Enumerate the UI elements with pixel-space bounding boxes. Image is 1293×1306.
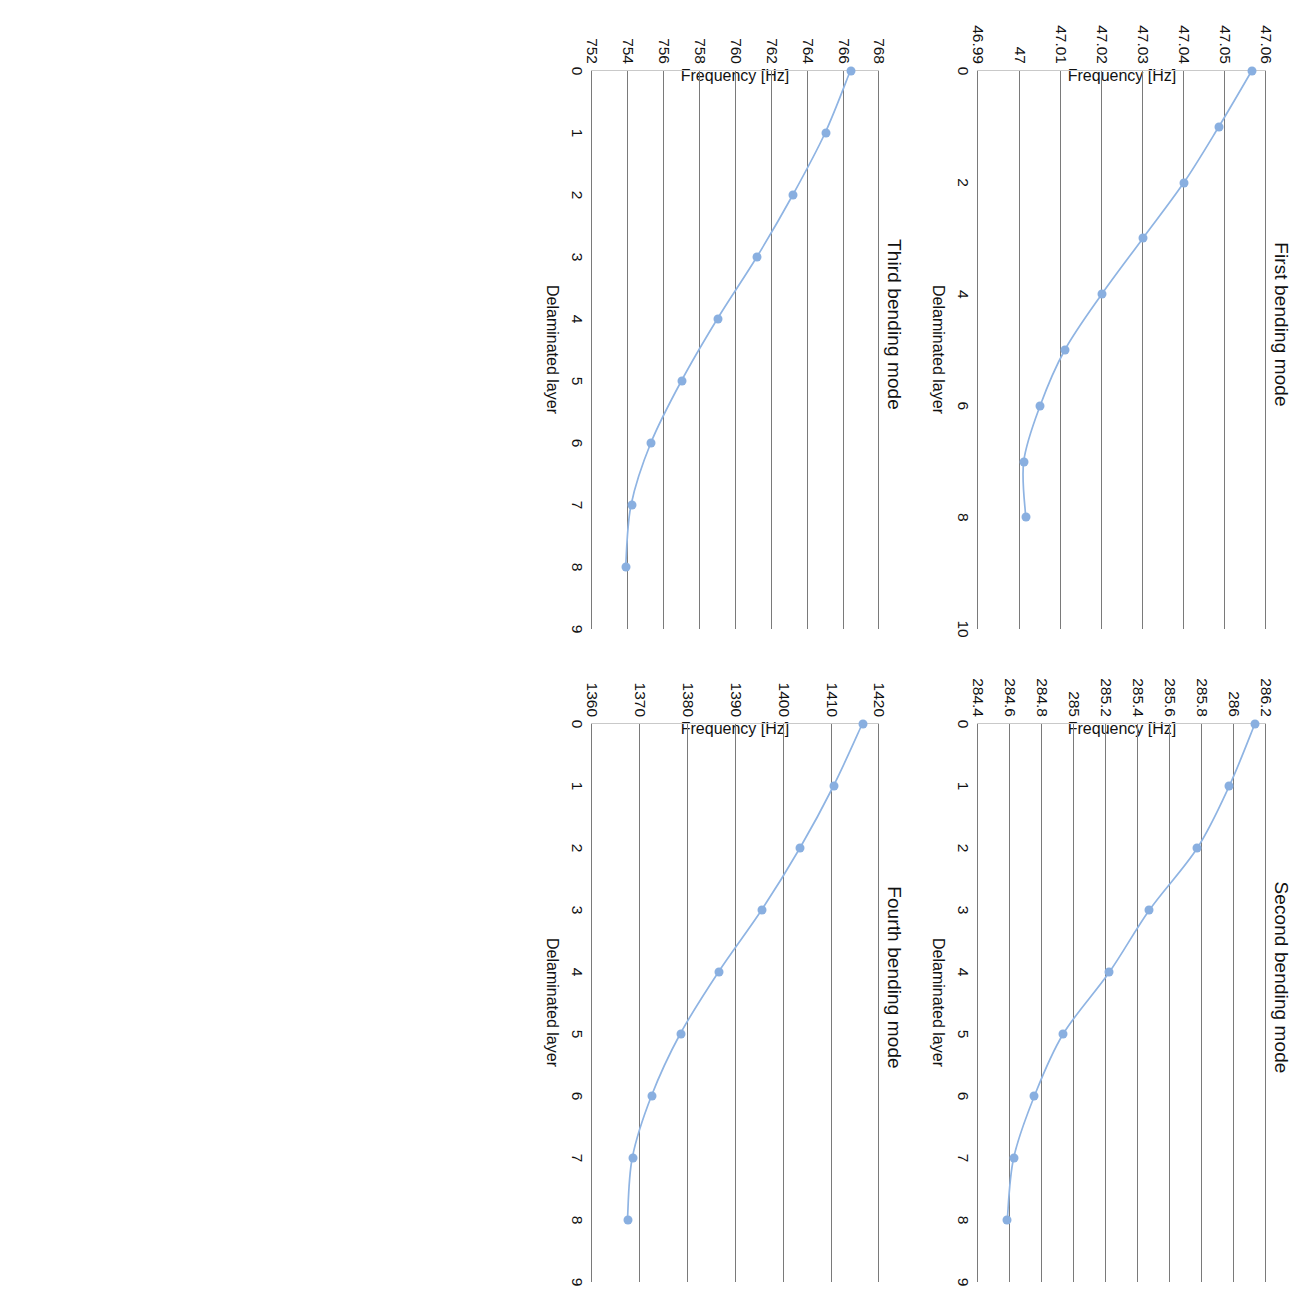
x-axis-tick-label: 4 (568, 968, 586, 977)
y-axis-tick-label: 284.8 (1034, 678, 1052, 717)
x-axis-tick-label: 6 (955, 401, 973, 410)
y-axis-tick-label: 47.03 (1134, 25, 1152, 64)
data-point-marker (846, 67, 855, 76)
data-point-marker (677, 377, 686, 386)
data-point-marker (1059, 1030, 1068, 1039)
data-series (979, 71, 1267, 629)
y-axis-tick-label: 752 (583, 38, 601, 64)
x-axis-tick-label: 4 (955, 968, 973, 977)
chart-panel-first-bending-mode: First bending mode Frequency [Hz] 47.064… (920, 0, 1293, 653)
data-point-marker (753, 253, 762, 262)
x-axis-label: Delaminated layer (930, 70, 948, 629)
y-axis-tick-label: 47.01 (1052, 25, 1070, 64)
x-axis-tick-label: 7 (568, 1154, 586, 1163)
x-axis-tick-label: 2 (955, 178, 973, 187)
x-axis-tick-label: 6 (568, 1092, 586, 1101)
x-axis-tick-label: 1 (955, 782, 973, 791)
x-axis-label: Delaminated layer (930, 723, 948, 1282)
y-axis-tick-label: 285.4 (1130, 678, 1148, 717)
x-axis-label: Delaminated layer (543, 723, 561, 1282)
data-point-marker (622, 563, 631, 572)
data-point-marker (829, 782, 838, 791)
x-axis-tick-label: 5 (568, 1030, 586, 1039)
data-point-marker (623, 1216, 632, 1225)
y-axis-tick-label: 285.2 (1098, 678, 1116, 717)
plot-area-wrapper: Frequency [Hz] 286.2286285.8285.6285.428… (978, 723, 1267, 1282)
data-point-marker (789, 191, 798, 200)
x-axis-tick-label: 5 (568, 377, 586, 386)
chart-panel-third-bending-mode: Third bending mode Frequency [Hz] 768766… (533, 0, 920, 653)
y-axis-tick-label: 1370 (631, 683, 649, 717)
y-axis-tick-label: 46.99 (970, 25, 988, 64)
plot-area: 14201410140013901380137013600123456789 (591, 723, 880, 1282)
data-point-marker (627, 501, 636, 510)
series-line (1007, 724, 1255, 1220)
x-axis-tick-label: 3 (568, 253, 586, 262)
data-point-marker (1060, 346, 1069, 355)
data-point-marker (1250, 720, 1259, 729)
x-axis-tick-label: 2 (568, 191, 586, 200)
series-line (1023, 71, 1252, 517)
x-axis-tick-label: 5 (955, 1030, 973, 1039)
chart-panel-second-bending-mode: Second bending mode Frequency [Hz] 286.2… (920, 653, 1293, 1306)
y-axis-tick-label: 756 (655, 38, 673, 64)
data-point-marker (1097, 290, 1106, 299)
data-point-marker (714, 968, 723, 977)
x-axis-tick-label: 6 (955, 1092, 973, 1101)
x-axis-tick-label: 2 (955, 844, 973, 853)
data-point-marker (647, 1092, 656, 1101)
x-axis-tick-label: 7 (568, 501, 586, 510)
y-axis-tick-label: 762 (763, 38, 781, 64)
y-axis-tick-label: 47.05 (1216, 25, 1234, 64)
x-axis-tick-label: 1 (568, 129, 586, 138)
y-axis-tick-label: 284.4 (970, 678, 988, 717)
data-point-marker (1036, 401, 1045, 410)
y-axis-tick-label: 1420 (871, 683, 889, 717)
x-axis-tick-label: 0 (955, 67, 973, 76)
data-point-marker (1225, 782, 1234, 791)
x-axis-label: Delaminated layer (543, 70, 561, 629)
x-axis-tick-label: 6 (568, 439, 586, 448)
data-point-marker (1021, 513, 1030, 522)
y-axis-tick-label: 286 (1225, 691, 1243, 717)
figure-canvas: First bending mode Frequency [Hz] 47.064… (533, 0, 1293, 1306)
x-axis-tick-label: 10 (955, 620, 973, 637)
y-axis-tick-label: 766 (835, 38, 853, 64)
plot-area: 286.2286285.8285.6285.4285.2285284.8284.… (978, 723, 1267, 1282)
x-axis-tick-label: 2 (568, 844, 586, 853)
data-point-marker (628, 1154, 637, 1163)
x-axis-tick-label: 9 (568, 1278, 586, 1287)
chart-title: Third bending mode (882, 6, 908, 643)
y-axis-tick-label: 754 (619, 38, 637, 64)
data-point-marker (1009, 1154, 1018, 1163)
data-point-marker (1030, 1092, 1039, 1101)
data-point-marker (647, 439, 656, 448)
data-point-marker (1193, 844, 1202, 853)
chart-grid: First bending mode Frequency [Hz] 47.064… (533, 0, 1293, 1306)
series-line (626, 71, 851, 567)
series-line (628, 724, 863, 1220)
x-axis-tick-label: 8 (568, 1216, 586, 1225)
data-point-marker (1214, 122, 1223, 131)
y-axis-tick-label: 764 (799, 38, 817, 64)
y-axis-tick-label: 286.2 (1257, 678, 1275, 717)
data-point-marker (1179, 178, 1188, 187)
y-axis-tick-label: 1390 (727, 683, 745, 717)
data-point-marker (1019, 457, 1028, 466)
x-axis-tick-label: 0 (955, 720, 973, 729)
x-axis-tick-label: 1 (568, 782, 586, 791)
data-point-marker (1003, 1216, 1012, 1225)
plot-area: 7687667647627607587567547520123456789 (591, 70, 880, 629)
y-axis-tick-label: 47 (1011, 47, 1029, 64)
data-point-marker (1105, 968, 1114, 977)
y-axis-tick-label: 1400 (775, 683, 793, 717)
plot-area-wrapper: Frequency [Hz] 7687667647627607587567547… (591, 70, 880, 629)
data-point-marker (821, 129, 830, 138)
y-axis-tick-label: 47.06 (1257, 25, 1275, 64)
y-axis-tick-label: 285.6 (1162, 678, 1180, 717)
data-point-marker (796, 844, 805, 853)
y-axis-tick-label: 284.6 (1002, 678, 1020, 717)
data-series (592, 71, 880, 629)
chart-title: Second bending mode (1268, 659, 1293, 1296)
y-axis-tick-label: 1380 (679, 683, 697, 717)
